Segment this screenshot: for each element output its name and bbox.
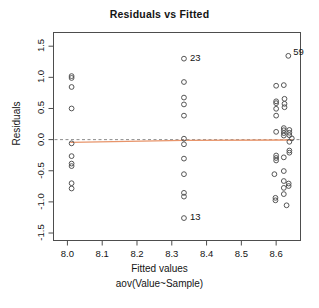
x-tick-label: 8.4	[192, 248, 222, 259]
data-point	[281, 83, 286, 88]
residuals-vs-fitted-plot: Residuals vs Fitted 8.08.18.28.38.48.58.…	[0, 0, 319, 308]
data-point	[274, 83, 279, 88]
y-tick-label: -1.0	[34, 186, 45, 216]
y-tick-label: 0.5	[34, 93, 45, 123]
y-tick-label: 0.0	[34, 124, 45, 154]
y-tick-label: -0.5	[34, 155, 45, 185]
data-point	[274, 129, 279, 134]
data-point	[69, 85, 74, 90]
plot-border	[54, 33, 301, 241]
data-point	[182, 56, 187, 61]
data-point	[281, 155, 286, 160]
data-point	[182, 102, 187, 107]
data-point	[69, 186, 74, 191]
data-point	[69, 181, 74, 186]
data-point	[182, 80, 187, 85]
point-label-59: 59	[293, 46, 304, 57]
y-tick-label: -1.5	[34, 218, 45, 248]
data-point-group	[69, 53, 294, 220]
data-point	[274, 106, 279, 111]
data-point	[286, 53, 291, 58]
data-point	[282, 96, 287, 101]
point-label-23: 23	[190, 52, 201, 63]
x-tick-label: 8.6	[261, 248, 291, 259]
x-axis-model-label: aov(Value~Sample)	[0, 278, 319, 289]
data-point	[281, 192, 286, 197]
data-point	[281, 169, 286, 174]
x-tick-label: 8.3	[157, 248, 187, 259]
data-point	[69, 106, 74, 111]
x-tick-label: 8.5	[226, 248, 256, 259]
point-label-13: 13	[190, 211, 201, 222]
plot-canvas	[0, 0, 319, 308]
x-tick-label: 8.2	[122, 248, 152, 259]
data-point	[284, 203, 289, 208]
data-point	[282, 105, 287, 110]
x-tick-label: 8.0	[52, 248, 82, 259]
lowess-smoother-line	[71, 140, 292, 142]
data-point	[69, 141, 74, 146]
reference-lines	[55, 140, 300, 143]
data-point	[182, 113, 187, 118]
x-axis-label: Fitted values	[0, 263, 319, 274]
axis-frame	[49, 33, 301, 246]
data-point	[182, 216, 187, 221]
data-point	[182, 95, 187, 100]
data-point	[182, 172, 187, 177]
data-point	[182, 156, 187, 161]
data-point	[182, 142, 187, 147]
y-tick-label: 1.0	[34, 62, 45, 92]
y-axis-label: Residuals	[11, 84, 22, 164]
data-point	[281, 185, 286, 190]
data-point	[69, 154, 74, 159]
data-point	[281, 179, 286, 184]
x-tick-label: 8.1	[87, 248, 117, 259]
data-point	[274, 113, 279, 118]
y-tick-label: 1.5	[34, 31, 45, 61]
data-point	[272, 172, 277, 177]
